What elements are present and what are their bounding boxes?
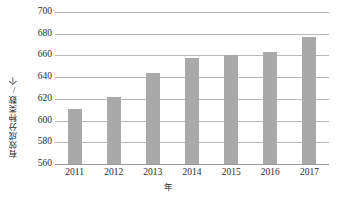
y-tick-label-580: 580: [24, 138, 52, 148]
bar-2017[interactable]: [302, 37, 316, 164]
bar-slot-2017: [290, 12, 329, 164]
x-tick-label-2011: 2011: [65, 167, 84, 178]
x-tick-label-2014: 2014: [183, 167, 202, 178]
y-tick-label-560: 560: [24, 159, 52, 169]
bar-slot-2014: [172, 12, 211, 164]
bar-2014[interactable]: [185, 58, 199, 164]
bar-2012[interactable]: [107, 97, 121, 164]
y-tick-label-620: 620: [24, 94, 52, 104]
bar-chart: 有效成分种类数/个 560580600620640660680700 20112…: [0, 0, 337, 209]
bar-2013[interactable]: [146, 73, 160, 164]
bar-slot-2015: [212, 12, 251, 164]
bar-slot-2013: [133, 12, 172, 164]
x-tick-label-2012: 2012: [104, 167, 123, 178]
x-tick-label-2015: 2015: [222, 167, 241, 178]
y-axis-title: 有效成分种类数/个: [10, 28, 24, 158]
y-tick-label-640: 640: [24, 72, 52, 82]
x-axis-title: 年: [0, 182, 337, 192]
x-tick-label-2016: 2016: [261, 167, 280, 178]
bar-2016[interactable]: [263, 52, 277, 164]
plot-area: [55, 12, 329, 164]
x-axis-tick-labels: 2011201220132014201520162017: [55, 167, 329, 181]
y-tick-label-700: 700: [24, 7, 52, 17]
x-tick-label-2013: 2013: [143, 167, 162, 178]
bar-slot-2016: [251, 12, 290, 164]
bar-2015[interactable]: [224, 55, 238, 164]
x-tick-label-2017: 2017: [300, 167, 319, 178]
y-tick-label-600: 600: [24, 116, 52, 126]
bar-slot-2012: [94, 12, 133, 164]
gridline-560: [55, 164, 329, 165]
y-tick-label-680: 680: [24, 29, 52, 39]
y-tick-label-660: 660: [24, 51, 52, 61]
bars-group: [55, 12, 329, 164]
y-axis-tick-labels: 560580600620640660680700: [24, 12, 52, 164]
bar-2011[interactable]: [68, 109, 82, 164]
bar-slot-2011: [55, 12, 94, 164]
